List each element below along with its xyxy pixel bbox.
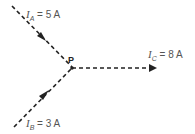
node-label-p: P [68, 55, 74, 65]
arrow-b-icon [39, 90, 49, 100]
label-ia: IA = 5 A [26, 8, 60, 22]
label-ic: IC = 8 A [148, 48, 183, 62]
label-ib: IB = 3 A [26, 117, 60, 131]
arrow-c-icon [149, 64, 157, 72]
node-p [70, 66, 74, 70]
